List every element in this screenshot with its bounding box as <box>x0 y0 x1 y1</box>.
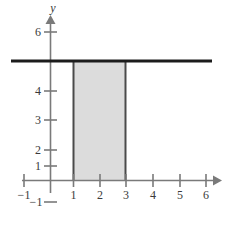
x-tick-label-neg1: −1 <box>18 188 31 202</box>
x-axis-arrowhead <box>213 176 222 186</box>
shaded-region <box>73 61 126 180</box>
y-tick-label-6: 6 <box>35 25 41 39</box>
y-axis-label: y <box>49 1 56 15</box>
y-tick-label-neg1: −1 <box>30 195 43 209</box>
x-tick-label-5: 5 <box>177 188 183 202</box>
y-tick-label-3: 3 <box>35 113 41 127</box>
x-tick-label-4: 4 <box>150 188 156 202</box>
x-tick-label-2: 2 <box>97 188 103 202</box>
y-tick-label-4: 4 <box>35 84 41 98</box>
x-tick-label-1: 1 <box>71 188 77 202</box>
y-axis-arrowhead <box>46 15 56 24</box>
x-tick-label-3: 3 <box>123 188 129 202</box>
graph-figure: −1 1 2 3 4 5 6 6 4 3 2 1 −1 y <box>0 0 227 227</box>
y-tick-label-1: 1 <box>35 159 41 173</box>
y-tick-label-2: 2 <box>35 143 41 157</box>
coordinate-plot: −1 1 2 3 4 5 6 6 4 3 2 1 −1 y <box>0 0 227 227</box>
x-tick-label-6: 6 <box>203 188 209 202</box>
